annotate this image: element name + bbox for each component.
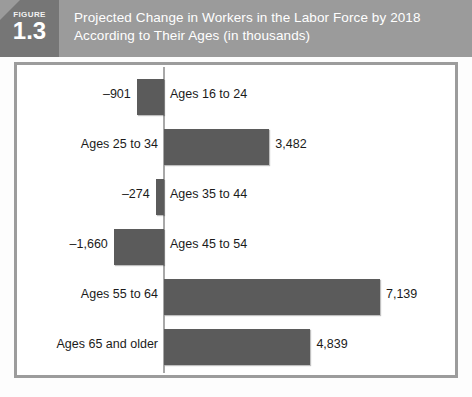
bar	[114, 229, 164, 265]
bar-category-label: Ages 16 to 24	[170, 87, 247, 101]
bar-chart-plot: Ages 16 to 24–901Ages 25 to 343,482Ages …	[17, 65, 455, 375]
figure-title-line-2: According to Their Ages (in thousands)	[74, 27, 464, 45]
bar-value-label: –274	[122, 187, 150, 201]
bar-row: Ages 25 to 343,482	[17, 122, 455, 172]
bar-row: Ages 16 to 24–901	[17, 72, 455, 122]
chart-frame: Ages 16 to 24–901Ages 25 to 343,482Ages …	[14, 62, 458, 378]
bar-row: Ages 35 to 44–274	[17, 172, 455, 222]
bar-category-label: Ages 35 to 44	[170, 187, 247, 201]
bar-category-label: Ages 55 to 64	[81, 287, 158, 301]
bar-row: Ages 45 to 54–1,660	[17, 222, 455, 272]
bar	[137, 79, 164, 115]
figure-title-line-1: Projected Change in Workers in the Labor…	[74, 9, 464, 27]
figure-header: FIGURE 1.3 Projected Change in Workers i…	[0, 0, 472, 57]
bar-value-label: 4,839	[316, 337, 347, 351]
bar-category-label: Ages 45 to 54	[170, 237, 247, 251]
bar	[156, 179, 164, 215]
bar-value-label: 7,139	[386, 287, 417, 301]
bar-value-label: –1,660	[70, 237, 108, 251]
bar-value-label: –901	[103, 87, 131, 101]
bar-row: Ages 55 to 647,139	[17, 272, 455, 322]
bar-category-label: Ages 65 and older	[57, 337, 158, 351]
figure-badge-number: 1.3	[0, 18, 59, 44]
figure-page: FIGURE 1.3 Projected Change in Workers i…	[0, 0, 472, 397]
bar	[164, 129, 269, 165]
figure-badge: FIGURE 1.3	[0, 0, 59, 57]
bar-row: Ages 65 and older4,839	[17, 322, 455, 372]
bar-category-label: Ages 25 to 34	[81, 137, 158, 151]
bar	[164, 279, 380, 315]
bar	[164, 329, 310, 365]
figure-title: Projected Change in Workers in the Labor…	[74, 9, 464, 45]
bar-value-label: 3,482	[275, 137, 306, 151]
